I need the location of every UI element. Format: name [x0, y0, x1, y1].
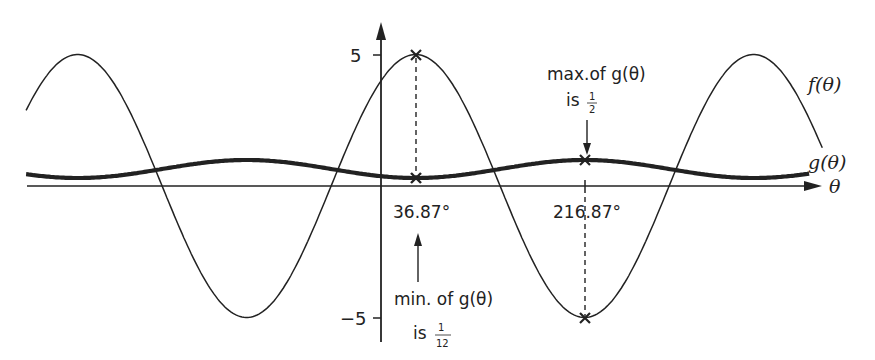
max-annotation-arrow-icon	[583, 143, 591, 155]
y-tick-label-neg5: −5	[340, 308, 367, 329]
f-theta-label: f(θ)	[806, 73, 841, 95]
min-annotation-line1: min. of g(θ)	[394, 289, 493, 309]
x-mark-label-216: 216.87°	[553, 202, 621, 222]
max-frac-den: 2	[589, 104, 595, 115]
y-axis-arrow-icon	[376, 22, 386, 40]
x-axis-arrow-icon	[804, 181, 822, 191]
y-tick-label-5: 5	[350, 45, 361, 66]
x-mark-label-36: 36.87°	[393, 202, 450, 222]
x-axis-label: θ	[829, 175, 841, 197]
min-frac-num: 1	[438, 322, 444, 333]
min-annotation-is: is	[413, 323, 427, 343]
trig-chart: 5 −5 36.87° 216.87° max.of g(θ) is 1 2 m…	[0, 0, 875, 360]
max-annotation-is: is	[566, 90, 580, 110]
max-frac-num: 1	[589, 91, 595, 102]
max-annotation-line1: max.of g(θ)	[547, 64, 646, 84]
g-theta-label: g(θ)	[808, 151, 846, 173]
min-frac-den: 12	[436, 338, 449, 349]
min-annotation-arrow-icon	[414, 233, 422, 246]
